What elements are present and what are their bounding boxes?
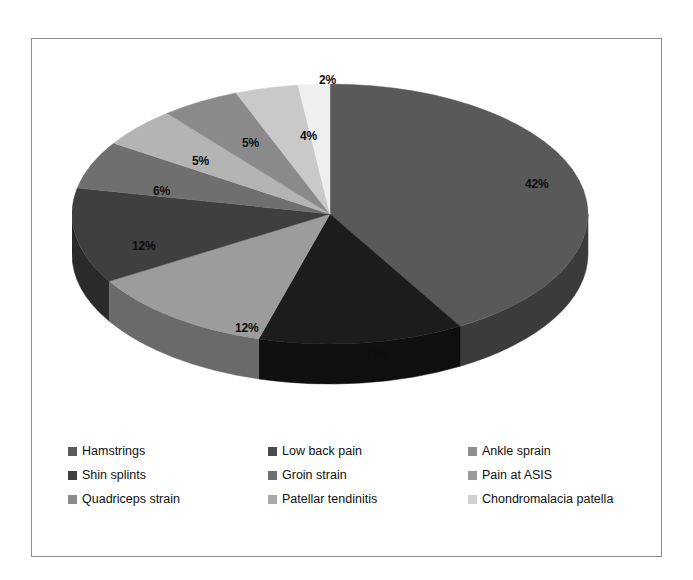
chart-legend: Hamstrings Shin splints Quadriceps strai… [68, 439, 648, 511]
legend-item-patellar-tendinitis[interactable]: Patellar tendinitis [268, 488, 468, 510]
data-label-hamstrings: 42% [525, 177, 548, 191]
legend-item-label: Chondromalacia patella [482, 493, 613, 506]
data-label-chondromalacia-patella: 2% [319, 73, 336, 87]
legend-swatch-icon [68, 447, 77, 456]
data-label-low-back-pain: 13% [365, 348, 388, 362]
data-label-pain-at-asis: 5% [192, 154, 209, 168]
legend-swatch-icon [468, 495, 477, 504]
legend-item-label: Pain at ASIS [482, 469, 552, 482]
legend-item-label: Shin splints [82, 469, 146, 482]
data-label-ankle-sprain: 12% [235, 321, 258, 335]
legend-swatch-icon [68, 471, 77, 480]
legend-swatch-icon [268, 447, 277, 456]
legend-item-shin-splints[interactable]: Shin splints [68, 464, 268, 486]
data-label-patellar-tendinitis: 4% [300, 129, 317, 143]
legend-item-label: Groin strain [282, 469, 347, 482]
legend-item-ankle-sprain[interactable]: Ankle sprain [468, 440, 668, 462]
legend-item-label: Patellar tendinitis [282, 493, 377, 506]
legend-item-pain-at-asis[interactable]: Pain at ASIS [468, 464, 668, 486]
legend-item-groin-strain[interactable]: Groin strain [268, 464, 468, 486]
legend-item-label: Low back pain [282, 445, 362, 458]
pie-chart-plot-area: 42% 13% 12% 12% 6% 5% 5% 4% 2% [32, 39, 661, 419]
pie-chart-graphic [72, 59, 632, 399]
chart-frame: 42% 13% 12% 12% 6% 5% 5% 4% 2% Hamstring… [31, 38, 662, 557]
legend-item-low-back-pain[interactable]: Low back pain [268, 440, 468, 462]
legend-item-chondromalacia-patella[interactable]: Chondromalacia patella [468, 488, 668, 510]
legend-item-hamstrings[interactable]: Hamstrings [68, 440, 268, 462]
legend-item-label: Hamstrings [82, 445, 145, 458]
data-label-quadriceps-strain: 5% [242, 136, 259, 150]
data-label-shin-splints: 12% [132, 239, 155, 253]
legend-item-quadriceps-strain[interactable]: Quadriceps strain [68, 488, 268, 510]
legend-swatch-icon [268, 495, 277, 504]
legend-swatch-icon [468, 447, 477, 456]
legend-swatch-icon [268, 471, 277, 480]
legend-item-label: Quadriceps strain [82, 493, 180, 506]
data-label-groin-strain: 6% [153, 184, 170, 198]
legend-swatch-icon [468, 471, 477, 480]
legend-item-label: Ankle sprain [482, 445, 551, 458]
legend-swatch-icon [68, 495, 77, 504]
